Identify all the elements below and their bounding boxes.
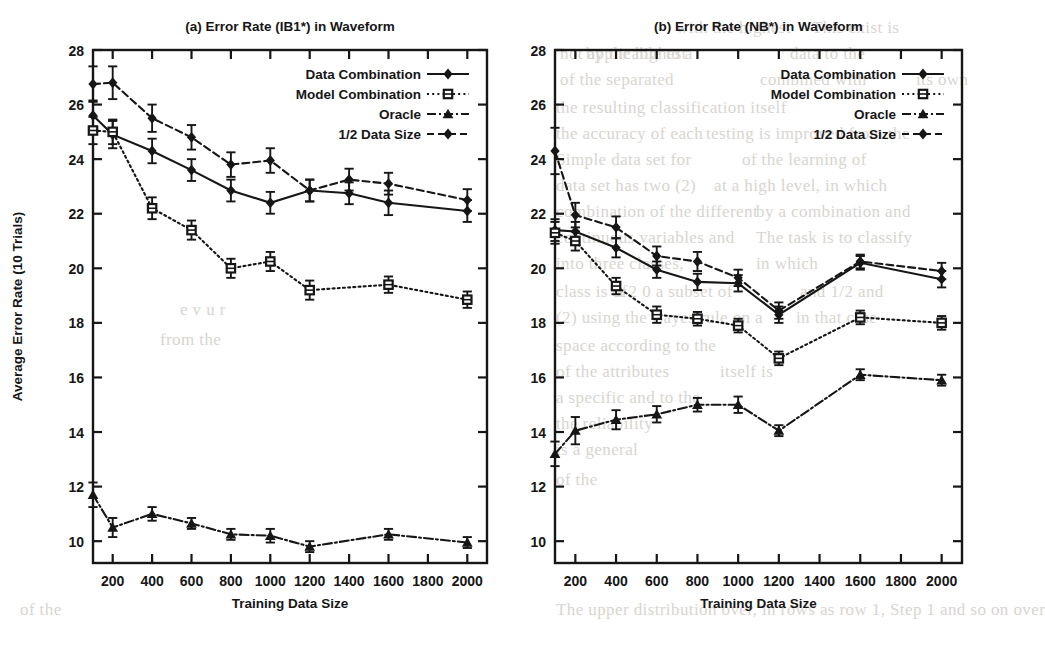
series-data-combination — [550, 219, 946, 323]
x-tick-label: 1800 — [412, 573, 443, 589]
legend-label: Model Combination — [771, 87, 896, 102]
series-oracle — [88, 483, 473, 553]
legend-label: Oracle — [854, 107, 897, 122]
y-tick-label: 16 — [68, 370, 84, 386]
y-tick-label: 14 — [68, 425, 84, 441]
x-tick-label: 1200 — [294, 573, 325, 589]
y-tick-label: 26 — [68, 97, 84, 113]
x-tick-label: 1200 — [763, 573, 794, 589]
legend-label: Data Combination — [780, 67, 896, 82]
y-tick-label: 22 — [68, 206, 84, 222]
legend-label: 1/2 Data Size — [813, 127, 896, 142]
x-tick-label: 1600 — [373, 573, 404, 589]
x-tick-label: 1000 — [255, 573, 286, 589]
x-tick-label: 2000 — [452, 573, 483, 589]
x-tick-label: 200 — [564, 573, 588, 589]
panel-title: (a) Error Rate (IB1*) in Waveform — [185, 19, 395, 34]
x-tick-label: 800 — [686, 573, 710, 589]
y-tick-label: 12 — [68, 479, 84, 495]
y-tick-label: 24 — [68, 152, 84, 168]
x-tick-label: 1800 — [885, 573, 916, 589]
legend-label: Data Combination — [305, 67, 421, 82]
x-tick-label: 1000 — [723, 573, 754, 589]
x-tick-label: 400 — [140, 573, 164, 589]
series-model-combination — [550, 222, 946, 365]
legend-label: 1/2 Data Size — [338, 127, 421, 142]
x-tick-label: 1400 — [334, 573, 365, 589]
legend-label: Model Combination — [296, 87, 421, 102]
y-tick-label: 10 — [530, 534, 546, 550]
legend: Data CombinationModel CombinationOracle1… — [771, 67, 944, 142]
y-tick-label: 20 — [68, 261, 84, 277]
x-axis-title: Training Data Size — [232, 596, 349, 611]
y-tick-label: 22 — [530, 206, 546, 222]
y-tick-label: 12 — [530, 479, 546, 495]
chart-panel-b: (b) Error Rate (NB*) in Waveform10121416… — [500, 0, 1005, 645]
y-tick-label: 10 — [68, 534, 84, 550]
y-tick-label: 14 — [530, 425, 546, 441]
series-model-combination — [88, 117, 472, 308]
panel-title: (b) Error Rate (NB*) in Waveform — [654, 19, 863, 34]
y-axis-title: Average Error Rate (10 Trials) — [10, 212, 25, 401]
legend: Data CombinationModel CombinationOracle1… — [296, 67, 469, 142]
legend-label: Oracle — [379, 107, 422, 122]
x-tick-label: 400 — [604, 573, 628, 589]
y-tick-label: 26 — [530, 97, 546, 113]
x-tick-label: 600 — [645, 573, 669, 589]
y-tick-label: 18 — [68, 315, 84, 331]
chart-panel-a: (a) Error Rate (IB1*) in Waveform1012141… — [0, 0, 505, 645]
y-tick-label: 28 — [68, 43, 84, 59]
series-oracle — [550, 369, 947, 466]
x-axis-title: Training Data Size — [700, 596, 817, 611]
plot-frame — [555, 50, 962, 563]
y-tick-label: 28 — [530, 43, 546, 59]
x-tick-label: 600 — [180, 573, 204, 589]
y-tick-label: 16 — [530, 370, 546, 386]
x-tick-label: 1400 — [804, 573, 835, 589]
x-tick-label: 800 — [219, 573, 243, 589]
y-tick-label: 20 — [530, 261, 546, 277]
y-tick-label: 18 — [530, 315, 546, 331]
x-tick-label: 200 — [101, 573, 125, 589]
x-tick-label: 1600 — [845, 573, 876, 589]
x-tick-label: 2000 — [926, 573, 957, 589]
y-tick-label: 24 — [530, 152, 546, 168]
